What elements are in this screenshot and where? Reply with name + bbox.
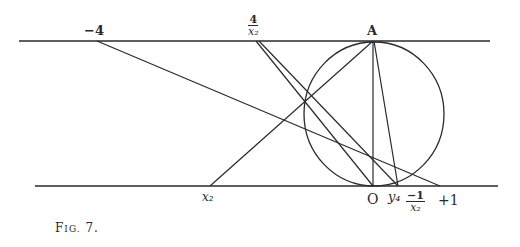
label-minus4: −4 <box>84 24 104 37</box>
circle <box>304 42 444 186</box>
label-plus1: +1 <box>438 193 459 207</box>
label-4-over-x2: 4 x₂ <box>248 14 259 37</box>
label-y4: y₄ <box>388 190 401 203</box>
caption-number: 7. <box>85 221 98 235</box>
label-x2: x₂ <box>202 191 214 203</box>
segment-x2-to-A <box>210 41 373 186</box>
label-A: A <box>367 24 377 37</box>
caption-rest: IG. <box>64 224 80 234</box>
label-minus1-over-x2-denominator: x₂ <box>410 202 421 213</box>
label-O: O <box>367 192 378 206</box>
segment-4x2-to-O <box>256 41 373 186</box>
caption-prefix: F <box>55 221 64 235</box>
diagram-canvas <box>0 0 520 247</box>
segment-minus4-to-plus1 <box>97 41 440 186</box>
figure-caption: FIG. 7. <box>55 221 99 235</box>
label-4-over-x2-denominator: x₂ <box>248 26 259 37</box>
label-minus1-over-x2: −1 x₂ <box>406 190 425 213</box>
